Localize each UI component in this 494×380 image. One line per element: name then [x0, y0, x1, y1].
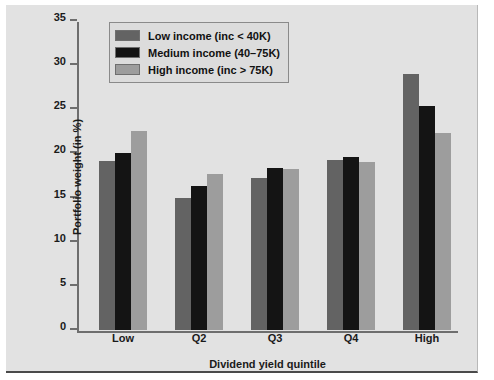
y-axis-tick-label: 30: [54, 55, 66, 67]
y-axis-tick: 5: [70, 284, 77, 286]
legend-label: High income (inc > 75K): [148, 64, 273, 76]
bar: [283, 169, 299, 330]
legend-swatch: [115, 30, 140, 41]
y-axis-tick-label: 15: [54, 188, 66, 200]
x-axis-label: Dividend yield quintile: [77, 358, 458, 370]
chart-legend: Low income (inc < 40K)Medium income (40–…: [109, 22, 289, 83]
bar: [327, 160, 343, 330]
y-axis-tick: 0: [70, 328, 77, 330]
x-axis-tick-label: Low: [99, 332, 147, 344]
bar: [99, 161, 115, 331]
legend-swatch: [115, 47, 140, 58]
bar: [419, 106, 435, 330]
x-axis-tick-label: Q2: [175, 332, 223, 344]
y-axis-tick: 35: [70, 19, 77, 21]
x-axis-tick-label: Q4: [327, 332, 375, 344]
bar: [403, 74, 419, 330]
y-axis-tick: 25: [70, 107, 77, 109]
y-axis-tick-label: 10: [54, 232, 66, 244]
legend-swatch: [115, 64, 140, 75]
legend-item: Low income (inc < 40K): [115, 27, 280, 44]
bar: [131, 131, 147, 330]
bar: [207, 174, 223, 330]
y-axis-tick-label: 35: [54, 11, 66, 23]
legend-label: Low income (inc < 40K): [148, 30, 271, 42]
y-axis-tick: 30: [70, 63, 77, 65]
legend-item: Medium income (40–75K): [115, 44, 280, 61]
legend-item: High income (inc > 75K): [115, 61, 280, 78]
bar: [251, 178, 267, 330]
y-axis-tick-label: 5: [60, 276, 66, 288]
x-axis-tick-label: Q3: [251, 332, 299, 344]
bar: [359, 162, 375, 330]
bar: [191, 186, 207, 330]
chart-figure: 05101520253035 Portfolio weight (in %) D…: [6, 5, 478, 373]
bar-group: Q4: [327, 21, 375, 330]
bar: [175, 198, 191, 330]
bar: [267, 168, 283, 330]
y-axis-tick: 10: [70, 240, 77, 242]
y-axis-tick-label: 0: [60, 320, 66, 332]
legend-label: Medium income (40–75K): [148, 47, 280, 59]
y-axis-label: Portfolio weight (in %): [71, 119, 83, 235]
y-axis-tick-label: 20: [54, 143, 66, 155]
y-axis-tick-label: 25: [54, 99, 66, 111]
bar-group: High: [403, 21, 451, 330]
x-axis-tick-label: High: [403, 332, 451, 344]
bar: [115, 153, 131, 330]
bar: [343, 157, 359, 330]
bar: [435, 133, 451, 330]
